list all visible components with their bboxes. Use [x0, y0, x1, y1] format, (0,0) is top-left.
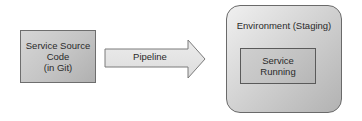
service-running-box: Service Running — [240, 48, 316, 84]
environment-title: Environment (Staging) — [226, 20, 342, 31]
service-running-line-2: Running — [260, 66, 295, 77]
pipeline-label: Pipeline — [112, 51, 188, 63]
service-running-line-1: Service — [262, 55, 294, 66]
